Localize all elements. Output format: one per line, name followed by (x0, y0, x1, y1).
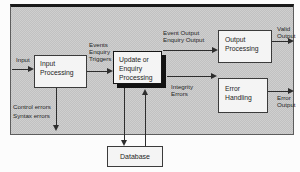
integrity-errors-arrow-line (167, 76, 211, 77)
event-output-arrow-line (163, 50, 212, 51)
events-arrowhead (107, 68, 113, 74)
integrity-errors-label: Integrity Errors (171, 83, 193, 97)
control-errors-arrowhead (53, 125, 59, 131)
error-output-label: Error Output (277, 94, 296, 108)
database-write-arrowhead (121, 140, 127, 146)
events-label: Events Enquiry Triggers (89, 41, 111, 62)
integrity-errors-arrowhead (211, 73, 217, 79)
input-label: Input (16, 56, 30, 63)
database-write-arrow-line (124, 88, 125, 140)
valid-output-label: Valid Output (277, 25, 296, 39)
input-processing-box: Input Processing (34, 55, 87, 88)
database-read-arrow-line (145, 95, 146, 146)
input-arrowhead (28, 66, 34, 72)
output-processing-box: Output Processing (218, 30, 272, 63)
error-output-arrow-line (268, 91, 288, 92)
event-output-label: Event Output Enquiry Output (163, 29, 204, 43)
input-arrow-line (12, 69, 28, 70)
error-handling-box: Error Handling (218, 78, 268, 113)
update-enquiry-processing-box: Update or Enquiry Processing (113, 51, 162, 84)
control-syntax-errors-label: Control errors Syntax errors (13, 103, 51, 120)
diagram-canvas: Input Processing Update or Enquiry Proce… (0, 0, 300, 172)
database-read-arrowhead (142, 89, 148, 95)
control-errors-arrow-line (56, 88, 57, 125)
events-arrow-line (87, 71, 107, 72)
valid-output-arrow-line (272, 41, 288, 42)
event-output-arrowhead (212, 47, 218, 53)
database-box: Database (107, 146, 163, 167)
